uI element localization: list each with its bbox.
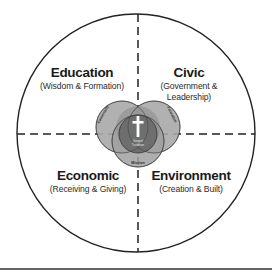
bottom-circle-label: Mission (131, 161, 144, 165)
civic-subtitle-line2: Leadership) (167, 92, 212, 102)
gospel-quadrant-diagram: Gospel Tradition Community Formation Mis… (0, 0, 272, 274)
education-subtitle: (Wisdom & Formation) (40, 81, 124, 91)
education-title: Education (51, 65, 114, 80)
center-label-line2: Tradition (132, 143, 145, 147)
environment-subtitle: (Creation & Built) (159, 184, 223, 194)
economic-title: Economic (57, 168, 120, 183)
civic-title: Civic (174, 65, 206, 80)
environment-title: Environment (151, 168, 231, 183)
economic-subtitle: (Receiving & Giving) (50, 184, 127, 194)
core-venn: Gospel Tradition Community Formation Mis… (96, 101, 180, 167)
civic-subtitle-line1: (Government & (161, 81, 218, 91)
